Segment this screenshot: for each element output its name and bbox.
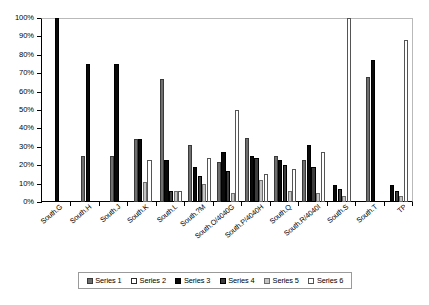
y-axis-tick-label: 40% xyxy=(19,124,34,132)
bar xyxy=(250,156,254,202)
legend-swatch-icon xyxy=(175,278,181,284)
bar xyxy=(274,156,278,202)
bar xyxy=(221,152,225,202)
bar-group xyxy=(271,18,299,202)
bar-group xyxy=(214,18,242,202)
y-axis-tick-label: 60% xyxy=(19,88,34,96)
bar xyxy=(86,64,90,202)
bar xyxy=(55,18,59,202)
legend-item[interactable]: Series 4 xyxy=(220,277,255,285)
bar xyxy=(143,182,147,202)
bar xyxy=(283,165,287,202)
bar xyxy=(147,160,151,202)
plot-area xyxy=(41,18,413,202)
bar xyxy=(245,138,249,202)
x-axis-tick-label: TP xyxy=(396,203,408,215)
bar-group xyxy=(328,18,356,202)
bar xyxy=(160,79,164,202)
x-axis-tick-label: South.G xyxy=(40,203,65,226)
legend-swatch-icon xyxy=(131,278,137,284)
y-axis-tick-label: 0% xyxy=(23,198,34,206)
bar xyxy=(311,167,315,202)
bar xyxy=(254,158,258,202)
x-axis: South.GSouth.HSouth.JSouth.KSouth.LSouth… xyxy=(41,203,413,265)
bar-group xyxy=(356,18,384,202)
x-axis-tick-label: South.Q xyxy=(269,203,294,226)
x-axis-tick-label: South.J xyxy=(98,203,121,224)
bar xyxy=(174,191,178,202)
bar xyxy=(321,152,325,202)
y-axis-tick-label: 50% xyxy=(19,106,34,114)
legend-label: Series 5 xyxy=(273,277,299,285)
bar xyxy=(110,156,114,202)
legend-label: Series 1 xyxy=(95,277,121,285)
bar xyxy=(164,160,168,202)
bar xyxy=(338,189,342,202)
bar xyxy=(198,176,202,202)
bar-group xyxy=(299,18,327,202)
legend-swatch-icon xyxy=(87,278,93,284)
bar xyxy=(114,64,118,202)
legend-label: Series 4 xyxy=(228,277,254,285)
bar xyxy=(207,158,211,202)
y-axis-tick-label: 30% xyxy=(19,143,34,151)
bar-group xyxy=(100,18,128,202)
bar xyxy=(259,180,263,202)
bar xyxy=(371,60,375,202)
y-axis-tick-label: 20% xyxy=(19,161,34,169)
chart-legend: Series 1Series 2Series 3Series 4Series 5… xyxy=(78,272,352,289)
y-axis-tick-label: 80% xyxy=(19,51,34,59)
legend-label: Series 3 xyxy=(184,277,210,285)
bar xyxy=(264,174,268,202)
bar xyxy=(347,18,351,202)
bar-group xyxy=(43,18,71,202)
y-axis-tick-label: 70% xyxy=(19,69,34,77)
bar xyxy=(169,191,173,202)
bar xyxy=(202,184,206,202)
bar xyxy=(235,110,239,202)
bar xyxy=(226,171,230,202)
bar xyxy=(81,156,85,202)
bar xyxy=(292,169,296,202)
legend-item[interactable]: Series 2 xyxy=(131,277,166,285)
bar-group xyxy=(71,18,99,202)
legend-label: Series 6 xyxy=(317,277,343,285)
bar xyxy=(404,40,408,202)
x-axis-tick-label: South.L xyxy=(155,203,179,225)
bar-group xyxy=(385,18,413,202)
bar xyxy=(399,196,403,202)
y-axis-tick-label: 90% xyxy=(19,32,34,40)
bar-group xyxy=(242,18,270,202)
bar xyxy=(178,191,182,202)
bar xyxy=(390,185,394,202)
bar xyxy=(395,191,399,202)
bar xyxy=(231,193,235,202)
bar-group xyxy=(157,18,185,202)
legend-item[interactable]: Series 3 xyxy=(175,277,210,285)
y-axis-tick-label: 10% xyxy=(19,180,34,188)
bar-group xyxy=(185,18,213,202)
x-axis-tick-label: South.S xyxy=(326,203,350,225)
bar xyxy=(217,162,221,202)
legend-item[interactable]: Series 5 xyxy=(264,277,299,285)
legend-swatch-icon xyxy=(264,278,270,284)
bar xyxy=(366,77,370,202)
bar xyxy=(134,139,138,202)
x-axis-tick-label: South.K xyxy=(126,203,150,225)
bar xyxy=(278,160,282,202)
legend-item[interactable]: Series 6 xyxy=(308,277,343,285)
bar xyxy=(193,167,197,202)
bar xyxy=(333,185,337,202)
y-axis: 100%90%80%70%60%50%40%30%20%10%0% xyxy=(0,0,41,220)
bar xyxy=(188,145,192,202)
legend-label: Series 2 xyxy=(140,277,166,285)
bar-group xyxy=(128,18,156,202)
x-axis-tick-label: South.H xyxy=(69,203,94,225)
legend-swatch-icon xyxy=(308,278,314,284)
bar xyxy=(307,145,311,202)
legend-item[interactable]: Series 1 xyxy=(87,277,122,285)
bar xyxy=(138,139,142,202)
x-axis-tick-label: South.T xyxy=(355,203,379,225)
bar xyxy=(302,160,306,202)
bar xyxy=(316,193,320,202)
